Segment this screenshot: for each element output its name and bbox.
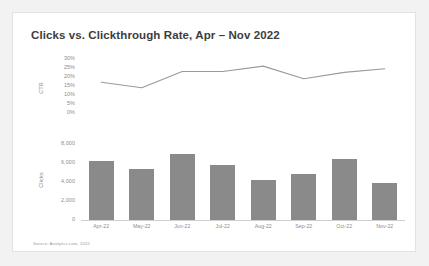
clicks-y-axis-ticks: 8,000 6,000 4,000 2,000 0: [29, 139, 75, 221]
bar-series: [81, 139, 405, 221]
bar-may-22[interactable]: [129, 169, 154, 221]
chart-card: Clicks vs. Clickthrough Rate, Apr – Nov …: [12, 12, 416, 252]
ctr-tick-30: 30%: [64, 55, 75, 61]
clicks-tick-6000: 6,000: [61, 159, 75, 165]
x-label-jun-22: Jun-22: [162, 223, 203, 229]
clicks-tick-2000: 2,000: [61, 197, 75, 203]
ctr-line-plot: [81, 55, 405, 121]
ctr-tick-25: 25%: [64, 64, 75, 70]
x-axis-labels: Apr-22May-22Jun-22Jul-22Aug-22Sep-22Oct-…: [81, 223, 405, 229]
bar-slot: [81, 139, 122, 221]
x-axis-baseline: [81, 220, 405, 221]
bar-slot: [284, 139, 325, 221]
x-label-oct-22: Oct-22: [324, 223, 365, 229]
clicks-tick-0: 0: [72, 216, 75, 222]
clicks-bar-plot: [81, 139, 405, 221]
bar-apr-22[interactable]: [89, 161, 114, 221]
bar-aug-22[interactable]: [251, 180, 276, 221]
x-label-may-22: May-22: [122, 223, 163, 229]
ctr-line-svg: [81, 55, 405, 121]
bar-slot: [203, 139, 244, 221]
ctr-tick-15: 15%: [64, 82, 75, 88]
bar-slot: [365, 139, 406, 221]
bar-slot: [162, 139, 203, 221]
ctr-tick-5: 5%: [67, 100, 75, 106]
ctr-panel: CTR 30% 25% 20% 15% 10% 5% 0%: [29, 55, 405, 121]
page-title: Clicks vs. Clickthrough Rate, Apr – Nov …: [31, 29, 280, 41]
bar-jul-22[interactable]: [210, 165, 235, 221]
x-label-sep-22: Sep-22: [284, 223, 325, 229]
bar-oct-22[interactable]: [332, 159, 357, 221]
x-label-nov-22: Nov-22: [365, 223, 406, 229]
clicks-tick-4000: 4,000: [61, 178, 75, 184]
clicks-tick-8000: 8,000: [61, 140, 75, 146]
bar-sep-22[interactable]: [291, 174, 316, 221]
x-label-jul-22: Jul-22: [203, 223, 244, 229]
ctr-tick-10: 10%: [64, 91, 75, 97]
clicks-panel: Clicks 8,000 6,000 4,000 2,000 0 Apr-22M…: [29, 139, 405, 243]
x-label-aug-22: Aug-22: [243, 223, 284, 229]
bar-slot: [243, 139, 284, 221]
bar-jun-22[interactable]: [170, 154, 195, 221]
ctr-line-series: [101, 66, 385, 88]
ctr-y-axis-ticks: 30% 25% 20% 15% 10% 5% 0%: [29, 55, 75, 121]
bar-slot: [122, 139, 163, 221]
screenshot-root: Clicks vs. Clickthrough Rate, Apr – Nov …: [0, 0, 429, 266]
ctr-tick-0: 0%: [67, 109, 75, 115]
chart-plot-area: CTR 30% 25% 20% 15% 10% 5% 0%: [13, 51, 417, 243]
source-note: Source: Analytics.com, 2022: [33, 241, 90, 246]
ctr-tick-20: 20%: [64, 73, 75, 79]
bar-slot: [324, 139, 365, 221]
bar-nov-22[interactable]: [372, 183, 397, 221]
x-label-apr-22: Apr-22: [81, 223, 122, 229]
